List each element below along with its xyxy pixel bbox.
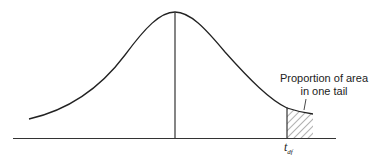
t-distribution-curve	[29, 12, 313, 119]
annotation-line-2: in one tail	[274, 85, 374, 98]
annotation-line-1: Proportion of area	[274, 72, 374, 85]
tail-area-hatch	[287, 108, 313, 138]
df-subscript: df	[287, 148, 292, 156]
annotation-leader-line	[304, 99, 306, 110]
critical-value-label: tdf	[284, 140, 293, 156]
tail-area-annotation: Proportion of area in one tail	[274, 72, 374, 98]
